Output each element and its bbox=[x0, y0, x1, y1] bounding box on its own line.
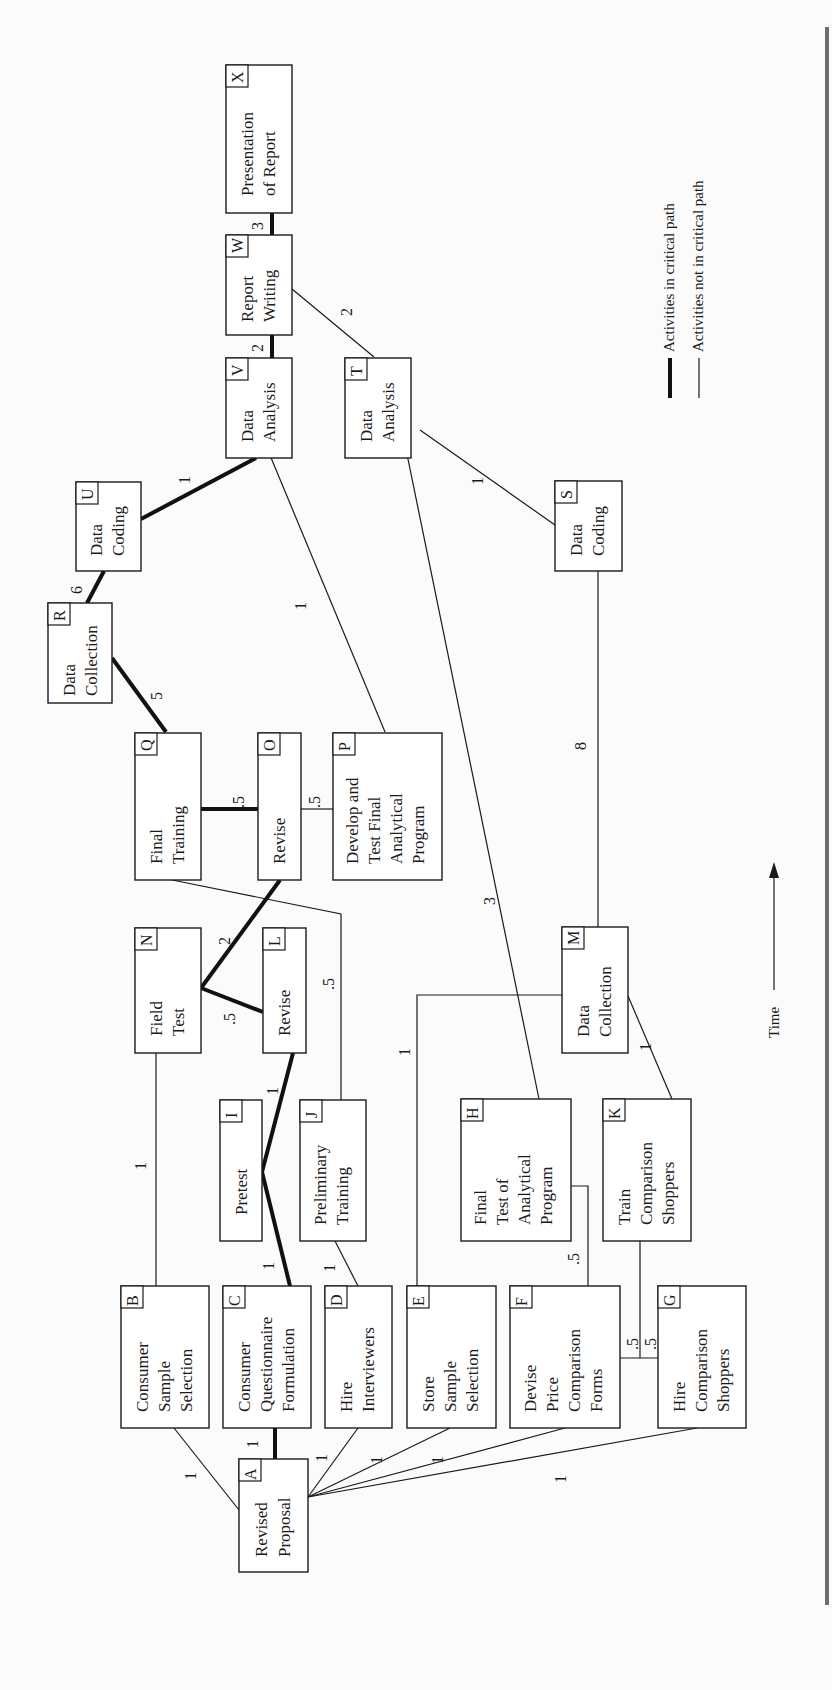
node-p: P Develop and Test Final Analytical Prog… bbox=[333, 733, 442, 880]
node-label-j-2: Training bbox=[333, 1167, 352, 1225]
duration-l-n: .5 bbox=[221, 1013, 238, 1025]
node-label-c-3: Formulation bbox=[279, 1327, 298, 1412]
node-id-i: I bbox=[223, 1113, 240, 1118]
node-id-m: M bbox=[565, 931, 582, 945]
node-label-g-2: Comparison bbox=[692, 1328, 711, 1412]
node-label-u-1: Data bbox=[87, 523, 106, 556]
node-label-u-2: Coding bbox=[109, 505, 128, 556]
legend-noncritical-label: Activities not in critical path bbox=[690, 180, 706, 352]
node-label-t-2: Analysis bbox=[379, 383, 398, 443]
duration-f-k: .5 bbox=[624, 1338, 641, 1350]
node-q: Q Final Training bbox=[135, 733, 201, 880]
duration-w-x: 3 bbox=[249, 222, 266, 230]
time-arrow-head-icon bbox=[769, 862, 779, 878]
edge-p-v bbox=[257, 424, 385, 732]
node-label-m-2: Collection bbox=[596, 966, 615, 1037]
node-label-h-2: Test of bbox=[493, 1178, 512, 1225]
node-label-h-3: Analytical bbox=[515, 1154, 534, 1225]
duration-v-w: 2 bbox=[249, 344, 266, 352]
node-label-l-1: Revise bbox=[275, 990, 294, 1036]
node-label-d-2: Interviewers bbox=[359, 1327, 378, 1412]
node-label-e-2: Sample bbox=[441, 1361, 460, 1412]
node-r: R Data Collection bbox=[48, 603, 112, 703]
duration-n-o: 2 bbox=[216, 937, 233, 945]
duration-e-m: 1 bbox=[396, 1048, 413, 1056]
node-t: T Data Analysis bbox=[345, 358, 411, 458]
node-label-o-1: Revise bbox=[270, 818, 289, 864]
node-label-a-1: Revised bbox=[252, 1502, 271, 1557]
node-label-g-3: Shoppers bbox=[714, 1349, 733, 1412]
node-id-q: Q bbox=[138, 739, 155, 751]
duration-f-h: .5 bbox=[565, 1253, 582, 1265]
node-label-r-2: Collection bbox=[82, 625, 101, 696]
duration-k-m: 1 bbox=[637, 1043, 654, 1051]
node-label-f-1: Devise bbox=[521, 1365, 540, 1412]
node-label-p-3: Analytical bbox=[387, 793, 406, 864]
node-label-r-1: Data bbox=[60, 663, 79, 696]
node-f: F Devise Price Comparison Forms bbox=[510, 1286, 620, 1428]
node-label-v-1: Data bbox=[238, 409, 257, 442]
node-id-j: J bbox=[303, 1112, 320, 1118]
duration-a-d: 1 bbox=[313, 1454, 330, 1462]
node-label-t-1: Data bbox=[357, 409, 376, 442]
duration-a-g: 1 bbox=[552, 1475, 569, 1483]
edge-s-t bbox=[420, 430, 555, 525]
node-label-b-2: Sample bbox=[155, 1361, 174, 1412]
node-id-p: P bbox=[336, 742, 353, 751]
duration-c-i: 1 bbox=[260, 1262, 277, 1270]
node-label-n-2: Test bbox=[169, 1008, 188, 1036]
node-id-t: T bbox=[348, 366, 365, 376]
node-id-g: G bbox=[661, 1294, 678, 1306]
node-id-n: N bbox=[138, 934, 155, 946]
node-id-a: A bbox=[242, 1468, 259, 1480]
duration-d-j: 1 bbox=[321, 1264, 338, 1272]
node-x: X Presentation of Report bbox=[226, 65, 292, 213]
duration-a-c: 1 bbox=[244, 1440, 261, 1448]
node-label-q-2: Training bbox=[169, 806, 188, 864]
duration-i-l: 1 bbox=[264, 1087, 281, 1095]
node-label-k-3: Shoppers bbox=[659, 1162, 678, 1225]
node-label-b-3: Selection bbox=[177, 1348, 196, 1412]
duration-q-r: 5 bbox=[148, 692, 165, 700]
node-c: C Consumer Questionnaire Formulation bbox=[223, 1286, 311, 1428]
node-b: B Consumer Sample Selection bbox=[121, 1286, 209, 1428]
node-id-d: D bbox=[328, 1294, 345, 1306]
node-w: W Report Writing bbox=[226, 235, 292, 335]
node-a: A Revised Proposal bbox=[239, 1459, 308, 1572]
node-label-x-1: Presentation bbox=[238, 111, 257, 196]
duration-t-w: 2 bbox=[338, 308, 355, 316]
node-label-v-2: Analysis bbox=[260, 383, 279, 443]
node-label-a-2: Proposal bbox=[275, 1497, 294, 1557]
node-id-e: E bbox=[410, 1296, 427, 1306]
node-label-e-3: Selection bbox=[463, 1348, 482, 1412]
node-label-f-2: Price bbox=[543, 1377, 562, 1412]
node-label-w-2: Writing bbox=[260, 269, 279, 322]
edge-a-b bbox=[174, 1428, 239, 1510]
node-l: L Revise bbox=[263, 928, 306, 1053]
node-v: V Data Analysis bbox=[226, 358, 292, 458]
node-id-w: W bbox=[229, 237, 246, 253]
node-label-c-2: Questionnaire bbox=[257, 1317, 276, 1412]
node-label-p-1: Develop and bbox=[343, 777, 362, 864]
edge-r-u bbox=[87, 571, 104, 603]
node-label-h-1: Final bbox=[471, 1190, 490, 1225]
node-label-p-4: Program bbox=[409, 805, 428, 864]
edge-f-h bbox=[571, 1186, 588, 1286]
duration-s-t: 1 bbox=[469, 477, 486, 485]
duration-a-e: 1 bbox=[368, 1456, 385, 1464]
node-label-d-1: Hire bbox=[337, 1382, 356, 1412]
node-label-j-1: Preliminary bbox=[311, 1144, 330, 1225]
node-n: N Field Test bbox=[135, 928, 201, 1053]
node-label-s-2: Coding bbox=[589, 505, 608, 556]
node-label-n-1: Field bbox=[147, 1001, 166, 1036]
node-u: U Data Coding bbox=[76, 482, 141, 571]
duration-a-f: 1 bbox=[429, 1456, 446, 1464]
duration-o-p: .5 bbox=[306, 796, 323, 808]
node-i: I Pretest bbox=[220, 1100, 262, 1241]
node-id-v: V bbox=[229, 364, 246, 376]
legend-critical-label: Activities in critical path bbox=[661, 203, 677, 352]
node-o: O Revise bbox=[258, 733, 301, 880]
duration-o-q: .5 bbox=[230, 796, 247, 808]
time-axis: Time bbox=[766, 862, 782, 1038]
time-axis-label: Time bbox=[766, 1007, 782, 1038]
